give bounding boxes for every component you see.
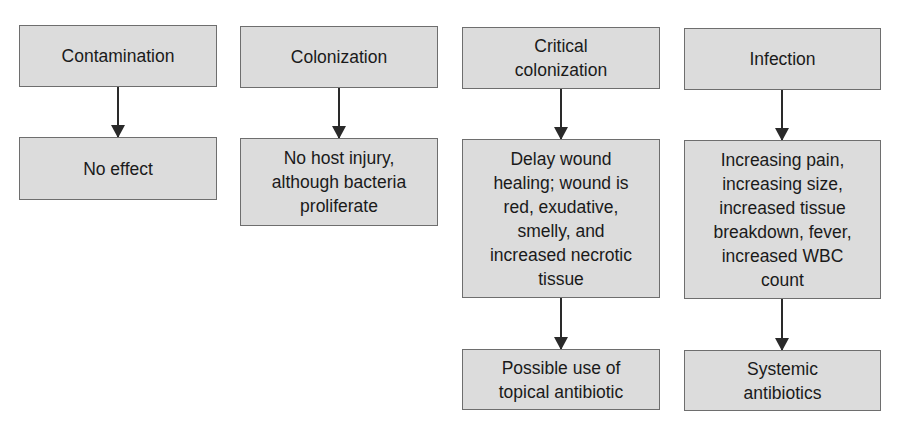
treatment-label: Systemic antibiotics [744, 357, 822, 405]
effect-box-contamination: No effect [19, 137, 217, 200]
arrow-down-icon [338, 88, 340, 138]
stage-box-critical-colonization: Critical colonization [462, 27, 660, 89]
effect-box-critical-colonization: Delay wound healing; wound is red, exuda… [462, 139, 660, 298]
stage-label: Infection [749, 47, 815, 71]
treatment-box-infection: Systemic antibiotics [684, 350, 881, 411]
effect-box-infection: Increasing pain, increasing size, increa… [684, 140, 881, 299]
stage-box-colonization: Colonization [240, 26, 438, 88]
stage-box-infection: Infection [684, 28, 881, 90]
effect-label: No effect [83, 157, 153, 181]
arrow-down-icon [117, 87, 119, 137]
effect-label: Increasing pain, increasing size, increa… [713, 148, 851, 292]
arrow-down-icon [781, 90, 783, 140]
arrow-down-icon [781, 299, 783, 350]
treatment-box-critical-colonization: Possible use of topical antibiotic [462, 349, 660, 410]
effect-label: Delay wound healing; wound is red, exuda… [490, 147, 632, 291]
stage-label: Colonization [291, 45, 387, 69]
stage-label: Critical colonization [515, 34, 607, 82]
treatment-label: Possible use of topical antibiotic [499, 356, 624, 404]
arrow-down-icon [560, 89, 562, 139]
arrow-down-icon [560, 298, 562, 349]
effect-box-colonization: No host injury, although bacteria prolif… [240, 138, 438, 226]
stage-label: Contamination [62, 44, 175, 68]
stage-box-contamination: Contamination [19, 25, 217, 87]
effect-label: No host injury, although bacteria prolif… [272, 146, 406, 218]
